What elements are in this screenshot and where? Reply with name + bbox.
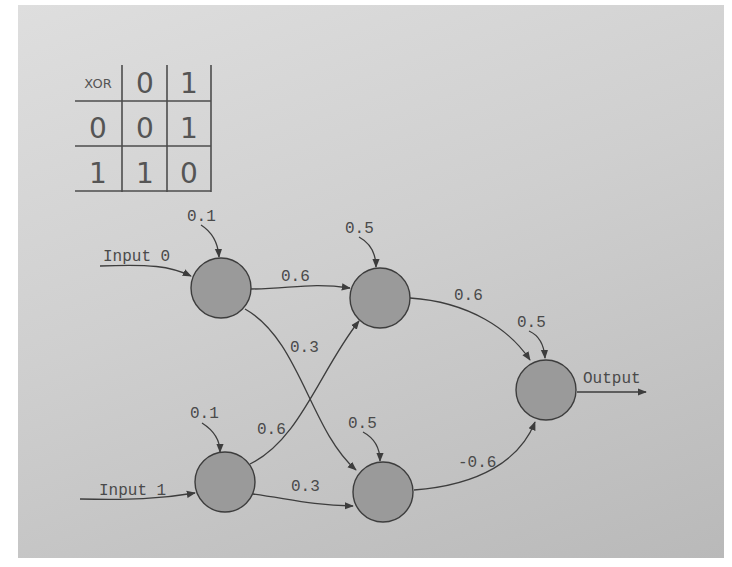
- weight-label-in0-h1: 0.3: [290, 339, 319, 357]
- bias-label-h0: 0.5: [345, 220, 374, 238]
- bias-label-h1: 0.5: [348, 415, 377, 433]
- bias-label-in1: 0.1: [190, 405, 219, 423]
- table-column-header: 1: [180, 67, 198, 100]
- table-cell: 0: [136, 112, 154, 145]
- xor-network-diagram: XOR 0 1 0 0 1 1 1 0: [0, 0, 732, 567]
- table-cell: 1: [136, 157, 154, 190]
- bias-arrow-h1: [363, 432, 380, 461]
- table-cell: 0: [180, 157, 198, 190]
- input-0-label: Input 0: [103, 248, 170, 266]
- edge-in0-h0: [251, 286, 350, 289]
- bias-arrow-in0: [201, 225, 219, 257]
- bias-label-in0: 0.1: [187, 208, 216, 226]
- node-hidden-1: [353, 462, 413, 522]
- weight-label-h0-out: 0.6: [454, 287, 483, 305]
- weight-label-in1-h1: 0.3: [291, 478, 320, 496]
- node-hidden-0: [350, 268, 410, 328]
- input-1-label: Input 1: [99, 482, 166, 500]
- table-row-header: 0: [89, 112, 107, 145]
- bias-label-out: 0.5: [517, 314, 546, 332]
- weight-label-in0-h0: 0.6: [281, 268, 310, 286]
- xor-truth-table: XOR 0 1 0 0 1 1 1 0: [75, 65, 211, 192]
- weight-label-h1-out: -0.6: [458, 454, 496, 472]
- network-labels: Input 0 Input 1 Output 0.1 0.1 0.5 0.5 0…: [99, 208, 641, 500]
- table-cell: 1: [180, 112, 198, 145]
- weight-label-in1-h0: 0.6: [257, 421, 286, 439]
- node-input-0: [191, 258, 251, 318]
- table-corner-label: XOR: [84, 76, 111, 91]
- bias-arrow-out: [529, 331, 545, 358]
- node-output: [516, 360, 576, 420]
- edge-in0-h1: [245, 309, 356, 470]
- network-nodes: [191, 258, 576, 522]
- output-label: Output: [583, 370, 641, 388]
- node-input-1: [195, 452, 255, 512]
- bias-arrow-h0: [359, 237, 376, 267]
- table-row-header: 1: [89, 157, 107, 190]
- bias-arrow-in1: [202, 423, 220, 452]
- table-column-header: 0: [136, 67, 154, 100]
- edge-h0-out: [410, 298, 530, 360]
- input-0-arrow: [100, 265, 191, 276]
